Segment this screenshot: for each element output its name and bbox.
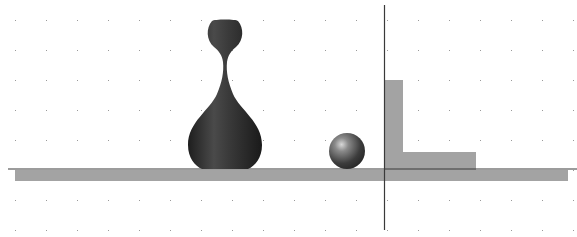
ground-shadow — [15, 170, 568, 181]
vase-object — [188, 20, 262, 170]
grid-dots — [15, 20, 574, 231]
scene-canvas — [0, 0, 577, 237]
sphere-object — [329, 133, 365, 169]
render-viewport — [0, 0, 577, 237]
wall-shadow — [385, 80, 476, 170]
